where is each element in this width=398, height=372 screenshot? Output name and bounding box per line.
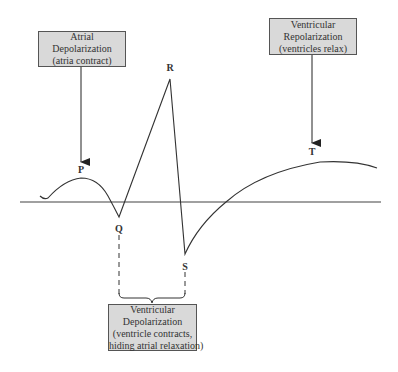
ventricular-depolarization-box: Ventricular Depolarization (ventricle co… — [108, 304, 197, 351]
p-wave-label: P — [78, 165, 84, 175]
repol-box-line3: (ventricles relax) — [270, 43, 356, 55]
atrial-depolarization-box: Atrial Depolarization (atria contract) — [38, 31, 126, 67]
atrial-box-line2: Depolarization — [39, 43, 125, 55]
atrial-box-line1: Atrial — [39, 31, 125, 43]
depol-box-line1: Ventricular — [109, 304, 196, 316]
atrial-box-line3: (atria contract) — [39, 55, 125, 67]
s-wave-label: S — [182, 262, 188, 272]
repol-box-line1: Ventricular — [270, 19, 356, 31]
r-wave-label: R — [166, 63, 173, 73]
repol-box-line2: Repolarization — [270, 31, 356, 43]
q-wave-label: Q — [115, 224, 123, 234]
depol-box-line3: (ventricle contracts, — [109, 328, 196, 340]
depol-box-line2: Depolarization — [109, 316, 196, 328]
t-wave-label: T — [309, 147, 316, 157]
ecg-waveform — [40, 79, 377, 254]
qrs-brace — [119, 293, 185, 303]
depol-box-line4: hiding atrial relaxation) — [109, 340, 196, 352]
ventricular-repolarization-box: Ventricular Repolarization (ventricles r… — [269, 18, 357, 55]
